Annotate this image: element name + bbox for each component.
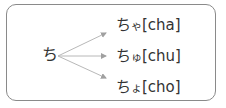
source-kana: ち (42, 46, 58, 64)
target-chu: ちゅ[chu] (116, 47, 181, 67)
target-small-kana: ょ (131, 82, 142, 95)
target-romaji: [cho] (142, 78, 181, 96)
target-romaji: [cha] (142, 16, 181, 34)
target-cha: ちゃ[cha] (116, 16, 181, 36)
target-kana: ち (116, 47, 131, 65)
branch-arrows (0, 0, 226, 108)
target-cho: ちょ[cho] (116, 78, 181, 98)
target-kana: ち (116, 78, 131, 96)
target-romaji: [chu] (142, 47, 181, 65)
target-small-kana: ゃ (131, 20, 142, 33)
arrow-to-cha (58, 33, 106, 56)
target-kana: ち (116, 16, 131, 34)
arrow-to-cho (58, 56, 106, 78)
target-small-kana: ゅ (131, 51, 142, 64)
